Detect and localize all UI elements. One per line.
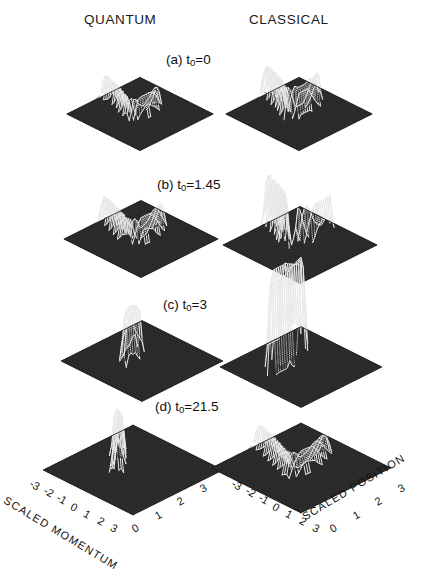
- surface-panel-a-classical: [241, 62, 361, 162]
- surface-panel-c-quantum: [78, 305, 210, 405]
- surface-panel-c-classical: [237, 305, 369, 413]
- figure-root: QUANTUM CLASSICAL (a) t0=0 (b) t0=1.45 (…: [0, 0, 430, 578]
- surface-mesh: [60, 412, 210, 516]
- tick-momentum-neg2: -2: [41, 485, 55, 500]
- surface-mesh: [80, 185, 206, 289]
- surface-mesh: [241, 62, 361, 162]
- tick-momentum-right-3: 3: [310, 521, 321, 534]
- tick-momentum-neg3: -3: [28, 477, 42, 492]
- surface-panel-a-quantum: [82, 62, 202, 162]
- tick-momentum-2: 2: [95, 514, 106, 527]
- column-header-quantum: QUANTUM: [84, 12, 156, 27]
- surface-mesh: [82, 62, 202, 162]
- tick-position-right-3: 3: [395, 481, 406, 494]
- surface-mesh: [228, 412, 378, 516]
- surface-panel-d-classical: [228, 412, 378, 516]
- surface-panel-b-quantum: [80, 185, 206, 289]
- tick-momentum-3: 3: [108, 521, 119, 534]
- surface-mesh: [78, 305, 210, 405]
- column-header-classical: CLASSICAL: [249, 12, 329, 27]
- tick-position-right-0: 0: [327, 521, 338, 534]
- surface-panel-d-quantum: [60, 412, 210, 516]
- tick-position-0: 0: [129, 521, 140, 534]
- surface-mesh: [237, 305, 369, 413]
